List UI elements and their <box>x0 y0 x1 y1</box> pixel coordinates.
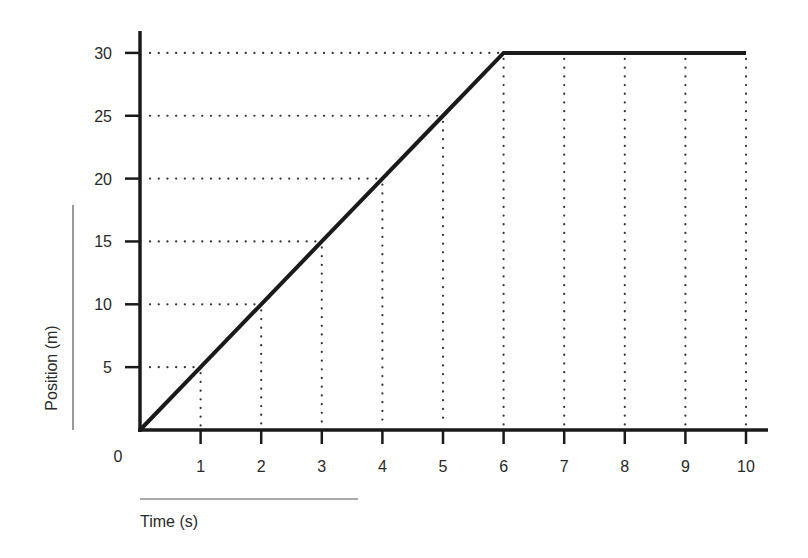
origin-label: 0 <box>114 448 123 465</box>
x-tick-label: 1 <box>196 458 205 475</box>
x-tick-label: 3 <box>317 458 326 475</box>
y-tick-label: 25 <box>94 108 112 125</box>
x-tick-label: 6 <box>499 458 508 475</box>
y-tick-label: 20 <box>94 171 112 188</box>
x-tick-label: 4 <box>378 458 387 475</box>
y-ticks: 51015202530 <box>94 45 140 376</box>
x-tick-label: 8 <box>620 458 629 475</box>
x-tick-label: 5 <box>439 458 448 475</box>
y-tick-label: 30 <box>94 45 112 62</box>
y-axis-title: Position (m) <box>43 325 60 410</box>
x-tick-label: 7 <box>560 458 569 475</box>
x-tick-label: 9 <box>681 458 690 475</box>
x-tick-label: 10 <box>737 458 755 475</box>
x-ticks: 12345678910 <box>196 430 755 475</box>
y-tick-label: 15 <box>94 233 112 250</box>
x-tick-label: 2 <box>257 458 266 475</box>
x-axis-title: Time (s) <box>140 513 198 530</box>
axes <box>138 31 768 432</box>
y-tick-label: 10 <box>94 296 112 313</box>
y-tick-label: 5 <box>103 359 112 376</box>
position-time-chart: 12345678910 51015202530 0 Position (m) T… <box>0 0 808 558</box>
